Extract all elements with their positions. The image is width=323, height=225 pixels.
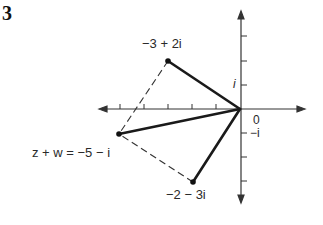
x-ticks (120, 104, 216, 109)
dashed-side-2 (119, 134, 193, 182)
arrow-down-icon (238, 195, 244, 203)
point-w-dot (190, 179, 196, 185)
complex-plane (0, 0, 323, 225)
vector-sum (119, 109, 240, 134)
arrow-left-icon (99, 106, 107, 112)
point-sum-dot (116, 131, 122, 137)
arrow-right-icon (297, 106, 305, 112)
label-point-sum: z + w = −5 − i (32, 145, 110, 160)
label-origin: 0 (253, 113, 260, 127)
dashed-side-1 (119, 61, 168, 134)
label-axis-neg-i: −i (250, 126, 260, 140)
label-axis-i: i (233, 77, 236, 91)
vector-z (168, 61, 240, 109)
vectors (119, 61, 240, 182)
point-z-dot (165, 58, 171, 64)
arrow-up-icon (238, 11, 244, 19)
axes (99, 11, 305, 203)
label-point-z: −3 + 2i (142, 36, 182, 51)
vector-w (193, 109, 240, 182)
label-point-w: −2 − 3i (166, 187, 206, 202)
